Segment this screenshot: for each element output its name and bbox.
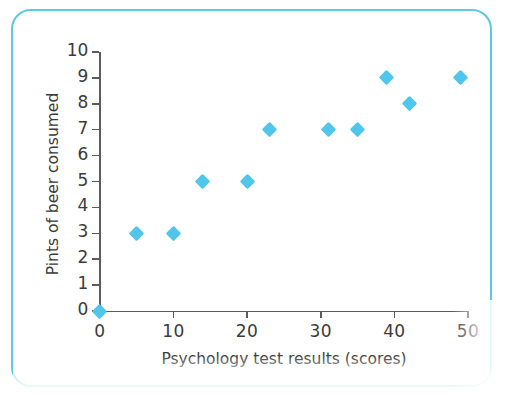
data-point	[129, 226, 145, 242]
x-tick	[320, 311, 322, 318]
data-point	[92, 303, 108, 319]
data-point	[401, 96, 417, 112]
x-tick-origin	[99, 296, 101, 304]
x-tick	[394, 311, 396, 318]
data-point	[350, 122, 366, 138]
y-tick	[92, 77, 99, 79]
x-tick-label: 50	[438, 321, 498, 341]
data-point	[195, 174, 211, 190]
y-tick	[92, 181, 99, 183]
y-tick	[92, 258, 99, 260]
data-point	[379, 70, 395, 86]
y-tick	[92, 129, 99, 131]
x-tick-label: 20	[217, 321, 277, 341]
x-axis-line	[99, 311, 469, 313]
x-tick-label: 40	[364, 321, 424, 341]
y-tick	[92, 233, 99, 235]
y-axis-line	[99, 52, 101, 312]
data-point	[239, 174, 255, 190]
y-tick	[92, 284, 99, 286]
y-tick	[92, 207, 99, 209]
y-axis-title: Pints of beer consumed	[44, 69, 62, 299]
x-tick	[173, 311, 175, 318]
data-point	[261, 122, 277, 138]
y-tick-label: 10	[54, 40, 88, 60]
x-axis-title: Psychology test results (scores)	[99, 350, 469, 368]
data-point	[453, 70, 469, 86]
data-point	[166, 226, 182, 242]
data-point	[320, 122, 336, 138]
x-tick-label: 10	[143, 321, 203, 341]
x-tick-label: 30	[291, 321, 351, 341]
y-tick	[92, 103, 99, 105]
chart-page: 012345678910 01020304050 Psychology test…	[0, 0, 507, 401]
y-tick	[92, 51, 99, 53]
x-tick-label: 0	[70, 321, 130, 341]
y-tick-label: 0	[54, 299, 88, 319]
x-tick	[467, 311, 469, 318]
y-tick	[92, 155, 99, 157]
x-tick	[246, 311, 248, 318]
scatter-plot: 012345678910 01020304050 Psychology test…	[0, 0, 507, 401]
